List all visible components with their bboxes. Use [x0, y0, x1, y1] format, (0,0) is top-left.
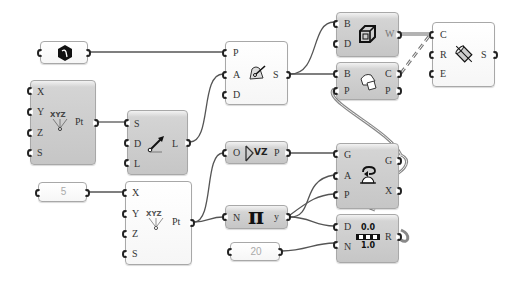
output-grip-g[interactable]	[396, 157, 402, 165]
wire-pt2-to-pi	[194, 217, 223, 222]
input-grip-s[interactable]	[122, 250, 128, 258]
wire-line-to-plane	[190, 74, 223, 142]
box-cube-icon	[357, 24, 377, 44]
output-label-g: G	[385, 156, 392, 166]
output-label-w: W	[385, 29, 394, 39]
input-label-x: X	[37, 87, 44, 97]
unit-z-component[interactable]: O VZ P	[225, 141, 288, 164]
deconstruct-brep-component[interactable]: B P C P	[336, 62, 399, 100]
input-label-x: X	[132, 188, 139, 198]
output-grip-r[interactable]	[396, 233, 402, 241]
input-label-n: N	[233, 213, 240, 223]
input-grip-d[interactable]	[222, 91, 228, 99]
line-sdl-component[interactable]: S D L L	[127, 110, 188, 175]
wire-plane-to-box	[290, 22, 334, 74]
input-grip-a[interactable]	[333, 172, 339, 180]
output-label-c: C	[385, 69, 392, 79]
output-label-pt: Pt	[75, 117, 83, 127]
input-grip-z[interactable]	[27, 129, 33, 137]
number-panel-20[interactable]: 20	[230, 242, 280, 261]
output-grip[interactable]	[277, 248, 283, 256]
input-grip-n[interactable]	[222, 213, 228, 221]
input-grip-p[interactable]	[333, 87, 339, 95]
input-label-n: N	[344, 242, 351, 252]
input-grip-d[interactable]	[333, 40, 339, 48]
input-label-y: Y	[132, 209, 139, 219]
divide-component[interactable]: D N 0.0 1.0 R	[336, 214, 399, 263]
input-label-b: B	[344, 69, 351, 79]
input-grip-l[interactable]	[124, 159, 130, 167]
input-grip-e[interactable]	[429, 70, 435, 78]
output-grip-c[interactable]	[396, 70, 402, 78]
input-grip-x[interactable]	[27, 87, 33, 95]
wire-pi-to-divide	[290, 217, 334, 226]
cylinder-icon	[453, 43, 475, 65]
input-grip-y[interactable]	[27, 108, 33, 116]
output-label-x: X	[385, 186, 392, 196]
input-grip-d[interactable]	[333, 223, 339, 231]
input-label-z: Z	[132, 229, 138, 239]
hexagon-geometry-icon	[56, 44, 74, 62]
wire-pt2-to-unitz	[194, 153, 223, 222]
input-label-a: A	[233, 70, 240, 80]
input-label-e: E	[440, 69, 446, 79]
brep-deconstruct-icon	[357, 71, 379, 93]
output-grip-s[interactable]	[492, 51, 498, 59]
output-grip-w[interactable]	[396, 31, 402, 39]
input-label-s: S	[134, 119, 140, 129]
output-grip-pt[interactable]	[189, 219, 195, 227]
divide-icon: 0.0 1.0	[355, 223, 381, 253]
plane-surface-icon	[246, 63, 268, 83]
input-grip-y[interactable]	[122, 210, 128, 218]
output-grip[interactable]	[84, 189, 90, 197]
box-component[interactable]: B D W	[336, 12, 399, 57]
output-label-r: R	[385, 232, 392, 242]
output-label-s: S	[481, 50, 487, 60]
input-grip-x[interactable]	[122, 189, 128, 197]
output-grip-pt[interactable]	[93, 119, 99, 127]
input-grip-r[interactable]	[429, 51, 435, 59]
input-grip-b[interactable]	[333, 70, 339, 78]
vector-z-icon: VZ	[245, 145, 271, 162]
input-grip-b[interactable]	[333, 20, 339, 28]
wire-20-to-divide	[282, 243, 334, 251]
input-grip-d[interactable]	[124, 139, 130, 147]
number-panel-5[interactable]: 5	[38, 182, 87, 202]
output-grip-s[interactable]	[285, 71, 291, 79]
input-grip-s[interactable]	[124, 119, 130, 127]
input-label-d: D	[233, 90, 240, 100]
input-label-l: L	[134, 159, 140, 169]
pi-icon: π	[248, 204, 264, 228]
input-grip-z[interactable]	[122, 230, 128, 238]
output-label-p: P	[385, 86, 391, 96]
input-grip-p[interactable]	[222, 49, 228, 57]
output-grip-x[interactable]	[396, 187, 402, 195]
output-grip-p[interactable]	[285, 149, 291, 157]
output-grip-y[interactable]	[285, 213, 291, 221]
line-arrow-icon	[147, 134, 167, 154]
pi-component[interactable]: N π y	[225, 205, 288, 229]
number-value: 5	[39, 186, 88, 197]
plane-surface-component[interactable]: P A D S	[225, 41, 288, 105]
input-grip-c[interactable]	[429, 31, 435, 39]
input-grip-a[interactable]	[222, 71, 228, 79]
wire-pi-to-rotate-p	[290, 194, 334, 215]
input-label-a: A	[344, 171, 351, 181]
cylinder-component[interactable]: C R E S	[432, 22, 495, 87]
output-label-pt: Pt	[172, 217, 180, 227]
construct-point-component-2[interactable]: X Y Z S XYZ Pt	[125, 181, 192, 265]
construct-point-component-1[interactable]: X Y Z S XYZ Pt	[30, 80, 96, 165]
output-grip-l[interactable]	[185, 139, 191, 147]
output-grip-p[interactable]	[396, 87, 402, 95]
output-grip[interactable]	[85, 49, 91, 57]
input-label-p: P	[233, 48, 239, 58]
input-grip[interactable]	[37, 49, 43, 57]
geometry-param[interactable]	[40, 41, 88, 64]
input-grip-g[interactable]	[333, 150, 339, 158]
xyz-point-icon: XYZ	[49, 111, 71, 133]
rotate-component[interactable]: G A P G X	[336, 143, 399, 209]
input-grip-o[interactable]	[222, 149, 228, 157]
input-grip-s[interactable]	[27, 149, 33, 157]
input-grip-p[interactable]	[333, 191, 339, 199]
input-grip-n[interactable]	[333, 241, 339, 249]
